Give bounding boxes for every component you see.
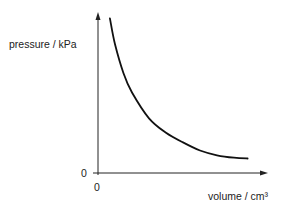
y-axis-arrow-icon — [96, 12, 101, 20]
pressure-volume-chart: pressure / kPa 0 0 volume / cm³ — [0, 0, 287, 211]
y-origin-tick-label: 0 — [81, 167, 87, 179]
x-axis-label: volume / cm³ — [208, 190, 269, 202]
x-origin-tick-label: 0 — [94, 181, 100, 193]
series-line — [110, 18, 248, 158]
y-axis-label: pressure / kPa — [9, 38, 77, 50]
x-axis-arrow-icon — [260, 171, 268, 176]
